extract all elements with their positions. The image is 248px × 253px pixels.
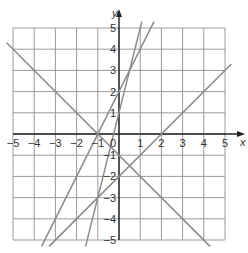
y-tick-label: 2 bbox=[110, 86, 116, 98]
y-tick-label: −3 bbox=[103, 192, 116, 204]
x-tick-label: 5 bbox=[222, 137, 228, 149]
y-tick-label: 5 bbox=[110, 22, 116, 34]
y-tick-label: −1 bbox=[103, 149, 116, 161]
x-tick-label: 3 bbox=[180, 137, 186, 149]
x-tick-label: 0 bbox=[110, 137, 116, 149]
x-axis-label: x bbox=[239, 136, 246, 148]
y-tick-label: 1 bbox=[110, 107, 116, 119]
x-tick-label: −2 bbox=[70, 137, 83, 149]
x-tick-label: 2 bbox=[158, 137, 164, 149]
coordinate-grid-chart: −5−4−3−2−101234554321−1−2−3−4−5xy bbox=[0, 0, 248, 253]
y-tick-label: −4 bbox=[103, 213, 116, 225]
y-tick-label: −5 bbox=[103, 234, 116, 246]
tick-labels: −5−4−3−2−101234554321−1−2−3−4−5xy bbox=[7, 7, 246, 246]
x-tick-label: −3 bbox=[49, 137, 62, 149]
x-tick-label: 1 bbox=[137, 137, 143, 149]
x-tick-label: −5 bbox=[7, 137, 20, 149]
y-tick-label: 4 bbox=[110, 43, 116, 55]
axes bbox=[13, 9, 245, 240]
x-tick-label: −4 bbox=[28, 137, 41, 149]
x-tick-label: −1 bbox=[92, 137, 105, 149]
y-tick-label: −2 bbox=[103, 170, 116, 182]
x-tick-label: 4 bbox=[201, 137, 207, 149]
y-tick-label: 3 bbox=[110, 64, 116, 76]
